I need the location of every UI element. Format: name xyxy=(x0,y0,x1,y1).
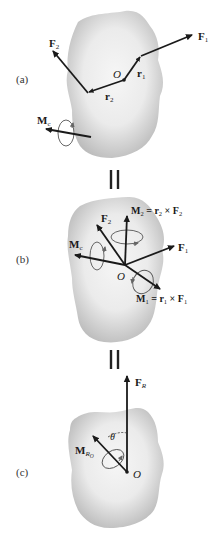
rigid-body-c xyxy=(68,408,163,528)
panel-c: (c) FR θ MRO O xyxy=(16,376,164,528)
label-origin-a: O xyxy=(113,68,121,80)
label-f1-b: F1 xyxy=(178,241,189,255)
rigid-body-b xyxy=(67,197,164,342)
label-fr: FR xyxy=(135,376,147,390)
panel-label-a: (a) xyxy=(16,73,29,86)
equivalence-sign-2 xyxy=(111,350,118,369)
origin-point-c xyxy=(125,470,129,474)
label-origin-c: O xyxy=(133,468,141,480)
panel-label-b: (b) xyxy=(16,253,29,266)
rigid-body-resultant-diagram: (a) F2 F1 O r1 r2 Mc (b) xyxy=(0,0,217,552)
label-mc-a: Mc xyxy=(37,114,51,128)
panel-b: (b) F2 M2 = r2 × F2 F1 Mc O M1 = r1 × F1 xyxy=(16,197,189,342)
origin-point-a xyxy=(122,78,126,82)
equivalence-sign-1 xyxy=(111,170,118,189)
label-origin-b: O xyxy=(117,270,125,282)
label-m2-equation: M2 = r2 × F2 xyxy=(131,205,182,217)
label-f2-a: F2 xyxy=(49,37,60,51)
label-m1-equation: M1 = r1 × F1 xyxy=(136,293,187,305)
panel-a: (a) F2 F1 O r1 r2 Mc xyxy=(16,11,209,158)
label-f1-a: F1 xyxy=(198,30,209,44)
label-theta: θ xyxy=(110,431,115,442)
panel-label-c: (c) xyxy=(16,466,29,479)
